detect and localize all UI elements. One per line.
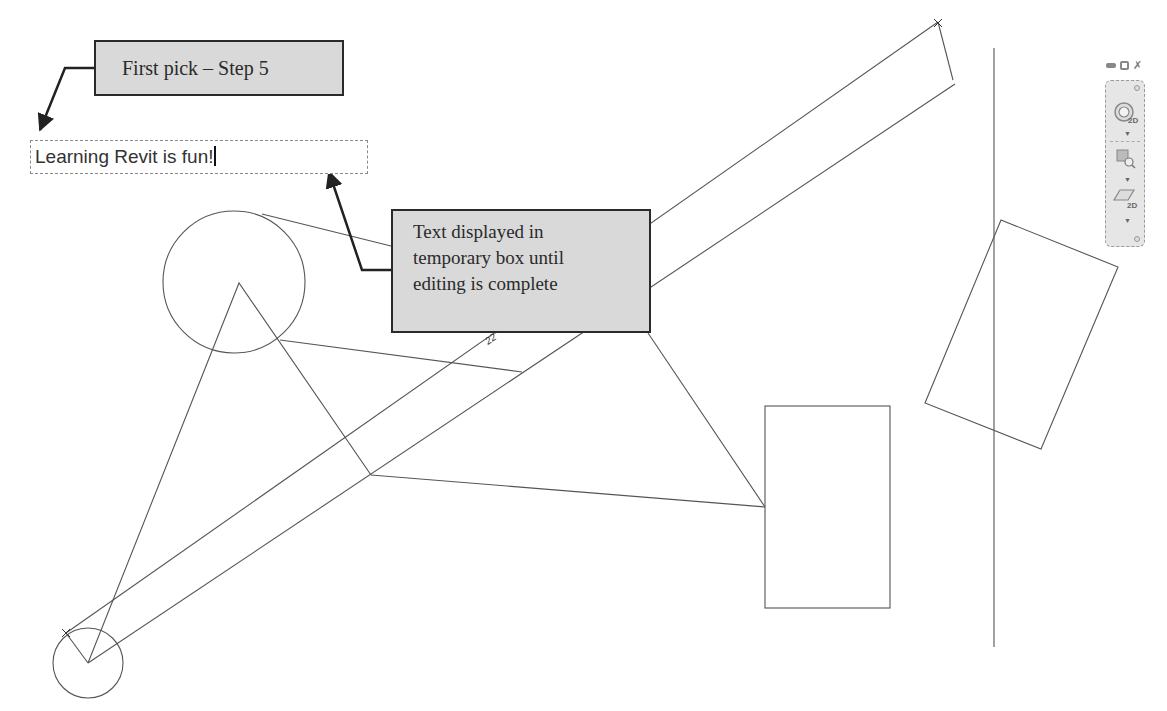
view-2d-button[interactable]: 2D <box>1112 187 1140 213</box>
triangle-sketch[interactable] <box>88 283 371 663</box>
nav-bar-options-icon[interactable] <box>1134 85 1140 91</box>
view-window-controls: ✗ <box>1106 58 1152 72</box>
callout-line-1: Text displayed in <box>413 219 649 245</box>
rotated-rectangle[interactable] <box>925 220 1118 449</box>
line-rect-diag[interactable] <box>648 333 765 507</box>
tangent-line-top[interactable] <box>262 214 391 246</box>
callout-line-2: temporary box until <box>413 245 649 271</box>
navigation-bar: 2D ▼ ▼ 2D ▼ <box>1105 80 1145 247</box>
badge-2d: 2D <box>1127 201 1137 210</box>
nav-bar-customize-icon[interactable] <box>1134 236 1140 242</box>
restore-icon[interactable] <box>1120 61 1129 70</box>
wall-start-cap[interactable] <box>66 633 88 663</box>
text-edit-box[interactable]: Learning Revit is fun! <box>30 140 368 174</box>
circle-large[interactable] <box>163 211 305 353</box>
leader-temp-box <box>329 172 391 270</box>
rectangle[interactable] <box>765 406 890 608</box>
callout-first-pick-text: First pick – Step 5 <box>122 57 269 79</box>
steering-wheel-dropdown[interactable]: ▼ <box>1124 130 1131 138</box>
nav-separator <box>1110 141 1140 142</box>
badge-2d: 2D <box>1128 116 1138 125</box>
callout-temporary-box: Text displayed in temporary box until ed… <box>391 209 651 333</box>
line-to-rect[interactable] <box>371 475 765 507</box>
steering-wheel-button[interactable]: 2D <box>1112 101 1140 127</box>
zoom-region-button[interactable] <box>1112 147 1140 173</box>
tangent-line-bottom[interactable] <box>280 340 522 372</box>
minimize-icon[interactable] <box>1106 63 1116 68</box>
close-icon[interactable]: ✗ <box>1133 59 1142 71</box>
zoom-dropdown[interactable]: ▼ <box>1124 176 1131 184</box>
text-caret <box>214 146 216 166</box>
callout-line-3: editing is complete <box>413 271 649 297</box>
callout-first-pick: First pick – Step 5 <box>94 40 344 96</box>
text-edit-value[interactable]: Learning Revit is fun! <box>35 146 214 167</box>
zoom-region-icon <box>1112 147 1140 173</box>
wall-end-cap[interactable] <box>938 22 953 80</box>
view-2d-dropdown[interactable]: ▼ <box>1124 217 1131 225</box>
endpoint-marker <box>934 19 942 27</box>
leader-first-pick <box>40 68 94 130</box>
drawing-canvas[interactable]: 22' <box>0 0 1167 711</box>
